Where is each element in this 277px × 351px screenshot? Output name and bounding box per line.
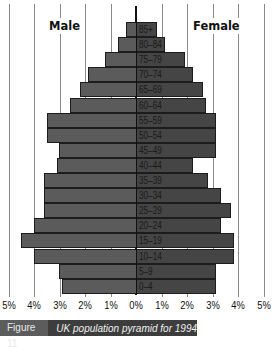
figure-title: UK population pyramid for 1994	[48, 323, 197, 334]
x-tick-label: 5%	[0, 299, 22, 311]
male-bar	[59, 264, 136, 279]
male-bar	[57, 158, 136, 173]
male-bar	[80, 82, 136, 97]
gridline	[238, 4, 239, 297]
x-tick-label: 4%	[21, 299, 47, 311]
x-tick-label: 2%	[174, 299, 200, 311]
age-group-label: 30–34	[139, 188, 162, 203]
x-tick-label: 4%	[225, 299, 251, 311]
age-group-label: 65–69	[139, 82, 162, 97]
male-bar	[105, 52, 136, 67]
female-label: Female	[191, 18, 242, 34]
male-bar	[47, 128, 136, 143]
age-group-label: 45–49	[139, 143, 162, 158]
age-group-label: 20–24	[139, 218, 162, 233]
x-tick-label: 1%	[98, 299, 124, 311]
age-group-label: 40–44	[139, 158, 162, 173]
x-tick-label: 0%	[123, 299, 149, 311]
male-bar	[44, 203, 136, 218]
male-bar	[34, 218, 136, 233]
age-group-label: 60–64	[139, 98, 162, 113]
age-group-label: 80–84	[139, 37, 162, 52]
x-tick-label: 2%	[72, 299, 98, 311]
x-tick-label: 5%	[251, 299, 277, 311]
age-group-label: 85+	[139, 22, 153, 37]
gridline	[264, 4, 265, 297]
x-tick-label: 3%	[47, 299, 73, 311]
age-group-label: 0–4	[139, 279, 153, 294]
male-label: Male	[47, 18, 82, 34]
age-group-label: 15–19	[139, 233, 162, 248]
figure-caption: Figure 11 UK population pyramid for 1994	[0, 320, 197, 336]
male-bar	[47, 113, 136, 128]
male-bar	[126, 22, 136, 37]
age-group-label: 70–74	[139, 67, 162, 82]
male-bar	[44, 188, 136, 203]
male-bar	[118, 37, 136, 52]
age-group-label: 50–54	[139, 128, 162, 143]
male-bar	[88, 67, 136, 82]
gridline	[9, 4, 10, 297]
male-bar	[62, 279, 136, 294]
male-bar	[44, 173, 136, 188]
figure-number: Figure 11	[0, 320, 48, 336]
age-group-label: 5–9	[139, 264, 153, 279]
x-tick-label: 3%	[200, 299, 226, 311]
age-group-label: 75–79	[139, 52, 162, 67]
male-bar	[34, 249, 136, 264]
age-group-label: 35–39	[139, 173, 162, 188]
age-group-label: 55–59	[139, 113, 162, 128]
age-group-label: 10–14	[139, 249, 162, 264]
male-bar	[70, 98, 136, 113]
x-tick-label: 1%	[149, 299, 175, 311]
male-bar	[59, 143, 136, 158]
male-bar	[21, 233, 136, 248]
age-group-label: 25–29	[139, 203, 162, 218]
